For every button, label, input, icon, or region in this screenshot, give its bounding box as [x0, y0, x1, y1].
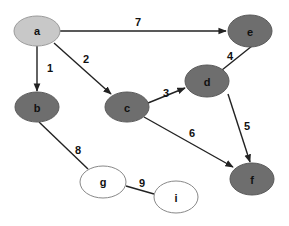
edge-label-1: 1: [47, 62, 53, 74]
node-i[interactable]: i: [154, 181, 198, 213]
edge-label-9: 9: [139, 177, 145, 189]
node-label-a: a: [34, 25, 41, 37]
node-d[interactable]: d: [185, 65, 229, 97]
node-label-i: i: [174, 192, 177, 204]
node-f[interactable]: f: [230, 163, 274, 195]
node-label-d: d: [204, 76, 211, 88]
node-a[interactable]: a: [14, 16, 60, 46]
edge-label-2: 2: [83, 53, 89, 65]
node-c[interactable]: c: [105, 92, 149, 122]
graph-diagram: 1 2 3 4 5 6 7 8 9 a b c d e: [0, 0, 289, 226]
edge-a-c: [54, 43, 111, 94]
node-label-g: g: [100, 176, 107, 188]
edge-label-7: 7: [135, 16, 141, 28]
node-label-f: f: [250, 174, 254, 186]
node-label-e: e: [247, 26, 253, 38]
node-b[interactable]: b: [15, 92, 59, 122]
node-label-b: b: [34, 102, 41, 114]
edge-label-4: 4: [227, 50, 234, 62]
edge-label-6: 6: [189, 127, 195, 139]
edge-label-8: 8: [75, 144, 81, 156]
edge-c-f: [144, 117, 233, 167]
node-e[interactable]: e: [228, 15, 272, 47]
edge-label-5: 5: [244, 120, 250, 132]
edge-label-3: 3: [163, 87, 169, 99]
node-label-c: c: [124, 102, 130, 114]
node-g[interactable]: g: [80, 166, 126, 198]
